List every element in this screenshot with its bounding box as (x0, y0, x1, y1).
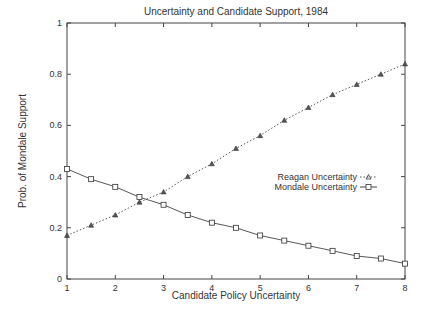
x-tick-label: 8 (402, 283, 407, 293)
legend-label-mondale: Mondale Uncertainty (274, 182, 357, 192)
triangle-marker-icon (403, 61, 408, 66)
square-marker-icon (137, 195, 142, 200)
triangle-marker-icon (137, 200, 142, 205)
y-tick-label: 0.6 (49, 120, 62, 130)
triangle-marker-icon (282, 118, 287, 123)
series-layer (65, 61, 408, 266)
square-marker-icon (209, 220, 214, 225)
triangle-marker-icon (185, 174, 190, 179)
square-marker-icon (258, 233, 263, 238)
y-axis: 00.20.40.60.81 (49, 18, 405, 284)
triangle-marker-icon (65, 233, 70, 238)
y-tick-label: 0 (57, 274, 62, 284)
x-tick-label: 7 (354, 283, 359, 293)
x-tick-label: 1 (64, 283, 69, 293)
square-marker-icon (378, 256, 383, 261)
line-chart: Uncertainty and Candidate Support, 1984 … (0, 0, 427, 318)
square-marker-icon (65, 166, 70, 171)
triangle-marker-icon (89, 223, 94, 228)
triangle-marker-icon (209, 161, 214, 166)
y-axis-label: Prob. of Mondale Support (17, 94, 28, 208)
y-tick-label: 0.4 (49, 172, 62, 182)
square-marker-icon (330, 248, 335, 253)
square-marker-icon (306, 243, 311, 248)
y-tick-label: 0.8 (49, 69, 62, 79)
x-axis-label: Candidate Policy Uncertainty (172, 290, 300, 301)
y-tick-label: 0.2 (49, 223, 62, 233)
square-marker-icon (234, 225, 239, 230)
triangle-marker-icon (354, 82, 359, 87)
x-axis: 12345678 (64, 23, 407, 293)
square-marker-icon (161, 202, 166, 207)
triangle-marker-icon (330, 92, 335, 97)
triangle-marker-icon (378, 72, 383, 77)
legend: Reagan Uncertainty Mondale Uncertainty (274, 172, 377, 192)
triangle-marker-icon (306, 105, 311, 110)
x-tick-label: 2 (113, 283, 118, 293)
triangle-marker-icon (258, 133, 263, 138)
triangle-marker-icon (113, 213, 118, 218)
square-marker-icon (403, 261, 408, 266)
triangle-marker-icon (161, 189, 166, 194)
square-marker-icon (282, 238, 287, 243)
y-tick-label: 1 (57, 18, 62, 28)
x-tick-label: 3 (161, 283, 166, 293)
square-marker-icon (366, 185, 371, 190)
legend-label-reagan: Reagan Uncertainty (277, 172, 357, 182)
square-marker-icon (354, 253, 359, 258)
chart-title: Uncertainty and Candidate Support, 1984 (144, 6, 328, 17)
triangle-marker-icon (234, 146, 239, 151)
square-marker-icon (185, 213, 190, 218)
square-marker-icon (113, 184, 118, 189)
x-tick-label: 6 (306, 283, 311, 293)
square-marker-icon (89, 177, 94, 182)
plot-frame (67, 23, 405, 279)
